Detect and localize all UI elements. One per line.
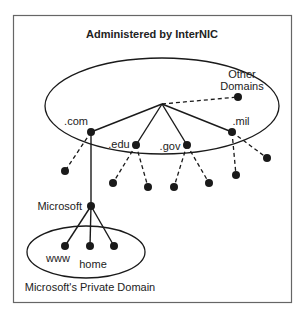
node-mil (228, 128, 236, 136)
label-domains: Domains (220, 80, 264, 92)
node-com-child (61, 167, 69, 175)
node-private-3 (110, 242, 118, 250)
node-edu-child-1 (109, 179, 117, 187)
node-mil-child-2 (263, 154, 271, 162)
node-gov (183, 141, 191, 149)
node-www (61, 242, 69, 250)
label-www: www (45, 252, 70, 264)
label-com: .com (64, 115, 88, 127)
node-edu-child-2 (144, 183, 152, 191)
node-home (86, 242, 94, 250)
node-com (87, 128, 95, 136)
private-domain-ellipse (27, 226, 145, 278)
label-mil: .mil (232, 115, 249, 127)
label-edu: .edu (108, 138, 129, 150)
node-other-domains (234, 93, 242, 101)
node-gov-child-2 (205, 179, 213, 187)
label-private-domain: Microsoft's Private Domain (25, 281, 155, 293)
label-microsoft: Microsoft (37, 200, 82, 212)
title-label: Administered by InterNIC (86, 28, 218, 40)
label-home: home (79, 258, 107, 270)
solid-edges (65, 104, 232, 246)
node-mil-child-1 (232, 171, 240, 179)
label-other: Other (228, 68, 256, 80)
node-gov-child-1 (170, 183, 178, 191)
label-gov: .gov (160, 140, 181, 152)
node-microsoft (87, 202, 95, 210)
node-edu (132, 141, 140, 149)
dns-hierarchy-diagram: Administered by InterNIC (0, 0, 304, 315)
